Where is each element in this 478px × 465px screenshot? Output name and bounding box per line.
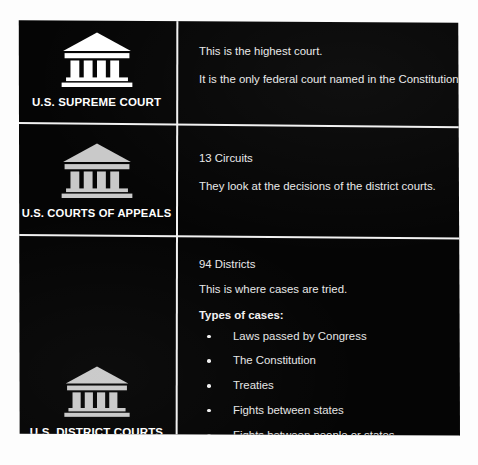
list-item: Laws passed by Congress: [199, 330, 450, 344]
case-types-list: Laws passed by Congress The Constitution…: [199, 330, 450, 453]
tier-district-courts: U.S. DISTRICT COURTS 94 Districts This i…: [17, 237, 460, 438]
case-types-heading: Types of cases:: [199, 308, 450, 322]
court-hierarchy-panel: U.S. SUPREME COURT This is the highest c…: [17, 16, 460, 438]
circuit-count: 13 Circuits: [199, 151, 450, 165]
list-item: Fights between states: [199, 404, 450, 418]
courthouse-icon: [63, 365, 131, 417]
list-item: The Constitution: [199, 354, 450, 368]
tier-label-courts-of-appeals: U.S. COURTS OF APPEALS: [22, 207, 172, 219]
description-line: This is where cases are tried.: [199, 282, 450, 296]
list-item: Fights between people or states: [199, 429, 450, 443]
tier-district-courts-body: 94 Districts This is where cases are tri…: [178, 237, 460, 438]
district-count: 94 Districts: [199, 257, 450, 271]
tier-district-courts-left: U.S. DISTRICT COURTS: [17, 237, 176, 465]
tier-supreme-court-body: This is the highest court. It is the onl…: [178, 16, 460, 123]
tier-supreme-court: U.S. SUPREME COURT This is the highest c…: [17, 16, 460, 123]
tier-label-district-courts: U.S. DISTRICT COURTS: [30, 426, 163, 438]
courthouse-icon: [60, 31, 134, 87]
tier-label-supreme-court: U.S. SUPREME COURT: [32, 96, 161, 108]
description-line: They look at the decisions of the distri…: [199, 179, 450, 193]
list-item: Treaties: [199, 379, 450, 393]
diagram-canvas: U.S. SUPREME COURT This is the highest c…: [0, 0, 478, 465]
tier-courts-of-appeals: U.S. COURTS OF APPEALS 13 Circuits They …: [17, 125, 460, 235]
courthouse-icon: [60, 142, 134, 198]
tier-courts-of-appeals-body: 13 Circuits They look at the decisions o…: [178, 125, 460, 235]
tier-supreme-court-left: U.S. SUPREME COURT: [17, 16, 176, 123]
tier-courts-of-appeals-left: U.S. COURTS OF APPEALS: [17, 125, 176, 235]
description-line: This is the highest court.: [199, 44, 450, 58]
description-line: It is the only federal court named in th…: [199, 72, 450, 86]
